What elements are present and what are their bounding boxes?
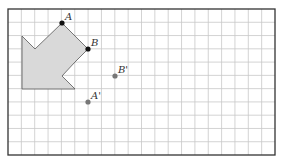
point-label: A' — [90, 90, 101, 101]
point-a-prime — [85, 99, 90, 104]
point-b — [85, 46, 90, 51]
transformation-diagram: ABB'A' — [0, 0, 283, 163]
point-label: B' — [117, 64, 128, 75]
point-a — [59, 20, 64, 25]
point-label: B — [90, 37, 98, 48]
point-b-prime — [112, 73, 117, 78]
point-label: A — [64, 11, 72, 22]
shaded-shape — [22, 23, 88, 89]
